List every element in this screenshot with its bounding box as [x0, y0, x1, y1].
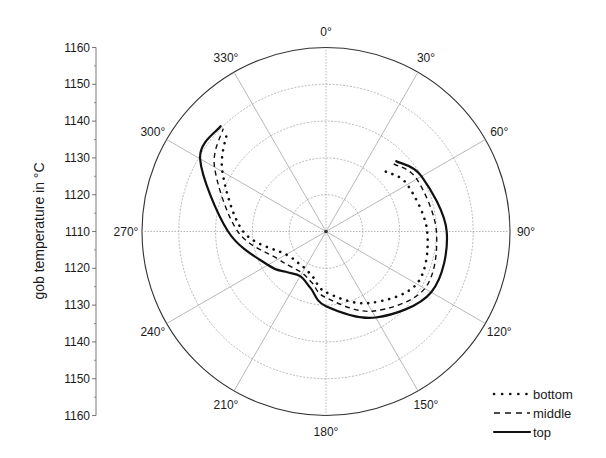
legend-label-bottom: bottom: [533, 387, 573, 402]
y-tick-label: 1130: [64, 298, 90, 312]
y-tick-label: 1120: [64, 188, 90, 202]
y-tick-label: 1150: [64, 77, 90, 91]
angle-tick-label: 300°: [140, 125, 165, 139]
y-tick-label: 1110: [65, 225, 90, 239]
y-tick-label: 1150: [64, 372, 90, 386]
y-tick-label: 1120: [64, 261, 90, 275]
data-series: [200, 126, 447, 318]
grid-spoke: [234, 72, 326, 231]
y-tick-label: 1130: [64, 151, 90, 165]
radial-axis: 1160115011401130112011101120113011401150…: [64, 41, 96, 423]
polar-chart: 0°30°60°90°120°150°180°210°240°270°300°3…: [0, 0, 606, 458]
angle-tick-label: 180°: [314, 425, 339, 439]
grid-spoke: [326, 72, 418, 231]
grid-spoke: [234, 232, 326, 391]
center-point: [324, 230, 328, 234]
angle-tick-label: 210°: [214, 398, 239, 412]
y-tick-label: 1140: [64, 335, 90, 349]
angle-tick-label: 240°: [140, 325, 165, 339]
grid-spoke: [326, 140, 485, 232]
angle-tick-label: 0°: [320, 25, 332, 39]
angle-tick-label: 150°: [414, 398, 439, 412]
angle-tick-label: 30°: [417, 51, 435, 65]
angle-tick-label: 90°: [517, 225, 535, 239]
y-tick-label: 1140: [64, 114, 90, 128]
legend-label-middle: middle: [533, 406, 571, 421]
series-top: [200, 126, 447, 318]
angle-tick-label: 120°: [487, 325, 512, 339]
series-middle: [214, 129, 437, 312]
angle-tick-label: 60°: [490, 125, 508, 139]
y-tick-label: 1160: [64, 409, 90, 423]
legend-label-top: top: [533, 425, 551, 440]
angle-tick-label: 330°: [214, 51, 239, 65]
legend: bottommiddletop: [494, 387, 573, 440]
y-tick-label: 1160: [64, 41, 90, 55]
y-axis-label: gob temperature in °C: [31, 162, 47, 299]
polar-grid: [142, 48, 510, 416]
grid-spoke: [167, 140, 326, 232]
angle-tick-label: 270°: [114, 225, 139, 239]
